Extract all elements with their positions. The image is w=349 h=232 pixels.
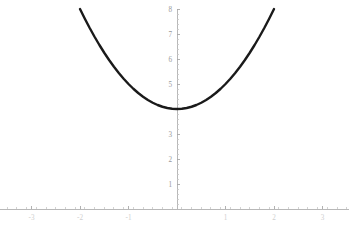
x-tick-label: -3 [29,214,35,222]
plot-canvas: -3-2-1123 1235678 [0,0,349,232]
y-tick-label: 3 [168,131,172,139]
x-tick-label: 3 [321,214,325,222]
y-tick-label: 6 [168,56,172,64]
x-tick-label: -1 [126,214,132,222]
y-tick-label: 2 [168,156,172,164]
y-tick-label: 5 [168,81,172,89]
x-tick-label: 1 [224,214,228,222]
plot-background [0,0,349,232]
y-tick-label: 7 [168,31,172,39]
x-tick-label: -2 [77,214,83,222]
x-tick-label: 2 [272,214,276,222]
y-tick-label: 8 [168,6,172,14]
plot-figure: -3-2-1123 1235678 [0,0,349,232]
y-tick-label: 1 [168,181,172,189]
